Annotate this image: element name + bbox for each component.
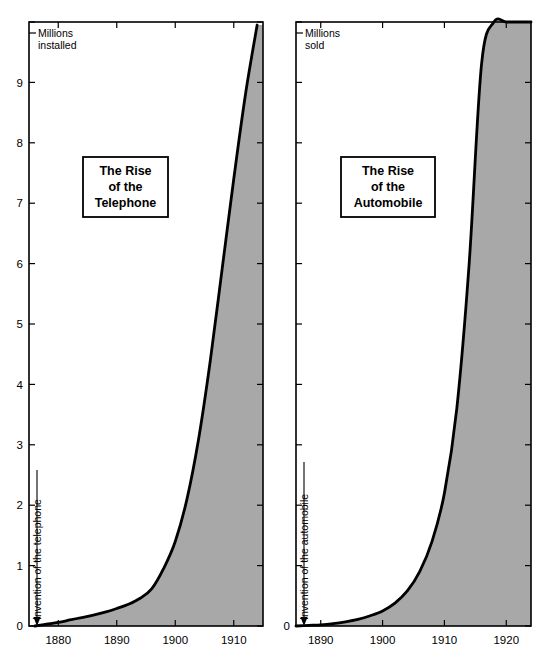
automobile-x-tick-label: 1910 xyxy=(432,634,458,646)
panel-telephone: 0123456789 1880189019001910 Millions ins… xyxy=(0,0,273,662)
telephone-y-tick-label: 1 xyxy=(17,560,23,572)
telephone-unit-label: Millions installed xyxy=(29,27,77,51)
telephone-annotation-label: Invention of the telephone xyxy=(31,499,43,620)
automobile-area-fill xyxy=(296,19,531,626)
figure-root: 0123456789 1880189019001910 Millions ins… xyxy=(0,0,546,662)
automobile-x-tick-label: 1900 xyxy=(370,634,396,646)
telephone-y-tick-label: 4 xyxy=(17,379,24,391)
telephone-title-line2: of the xyxy=(108,180,142,194)
telephone-y-tick-label: 9 xyxy=(17,77,23,89)
telephone-title-line3: Telephone xyxy=(95,196,157,210)
automobile-x-tick-label: 1890 xyxy=(308,634,334,646)
telephone-y-tick-label: 0 xyxy=(17,620,23,632)
automobile-unit-label: Millions sold xyxy=(296,27,340,51)
telephone-x-tick-label: 1880 xyxy=(45,634,71,646)
telephone-x-tick-labels: 1880189019001910 xyxy=(45,634,246,646)
telephone-y-tick-label: 8 xyxy=(17,137,23,149)
telephone-x-tick-label: 1890 xyxy=(104,634,130,646)
telephone-title-line1: The Rise xyxy=(99,164,151,178)
telephone-x-tick-label: 1910 xyxy=(221,634,247,646)
telephone-y-tick-label: 5 xyxy=(17,318,23,330)
automobile-title-line3: Automobile xyxy=(354,196,423,210)
telephone-title-box: The Rise of the Telephone xyxy=(83,157,168,217)
telephone-x-tick-label: 1900 xyxy=(162,634,188,646)
telephone-area-fill xyxy=(35,25,263,626)
telephone-y-tick-label: 2 xyxy=(17,499,23,511)
panel-automobile: 0 1890190019101920 Millions sold Inventi… xyxy=(273,0,546,662)
automobile-unit-label-line1: Millions xyxy=(305,27,340,39)
telephone-plot: 0123456789 1880189019001910 Millions ins… xyxy=(0,0,273,662)
automobile-invention-annotation: Invention of the automobile xyxy=(298,462,310,626)
automobile-title-line1: The Rise xyxy=(362,164,414,178)
telephone-y-tick-label: 3 xyxy=(17,439,23,451)
automobile-annotation-label: Invention of the automobile xyxy=(298,494,310,620)
automobile-unit-label-line2: sold xyxy=(305,39,324,51)
automobile-y-tick-labels: 0 xyxy=(284,620,290,632)
telephone-y-tick-label: 7 xyxy=(17,197,23,209)
telephone-unit-label-line2: installed xyxy=(38,39,77,51)
automobile-plot: 0 1890190019101920 Millions sold Inventi… xyxy=(273,0,546,662)
telephone-y-tick-labels: 0123456789 xyxy=(17,77,24,633)
telephone-unit-label-line1: Millions xyxy=(38,27,73,39)
telephone-invention-annotation: Invention of the telephone xyxy=(31,470,43,626)
automobile-title-line2: of the xyxy=(371,180,405,194)
automobile-x-tick-labels: 1890190019101920 xyxy=(308,634,519,646)
automobile-y-tick-label: 0 xyxy=(284,620,290,632)
automobile-x-tick-label: 1920 xyxy=(493,634,519,646)
automobile-title-box: The Rise of the Automobile xyxy=(341,157,435,217)
telephone-y-tick-label: 6 xyxy=(17,258,23,270)
